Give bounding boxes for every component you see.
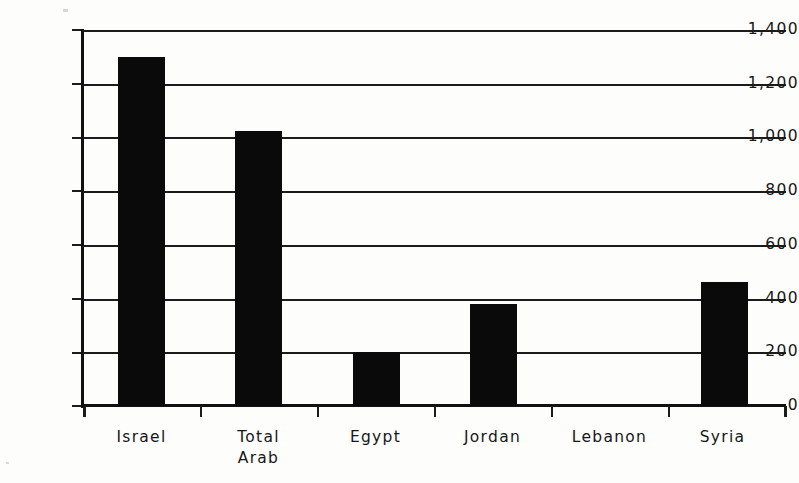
bar-egypt [353,352,400,406]
x-axis-tick [317,406,319,417]
scan-speck [63,9,68,12]
gridline-400 [83,299,786,301]
plot-area [83,30,786,406]
bar-syria [701,282,748,406]
gridline-1000 [83,137,786,139]
gridline-800 [83,191,786,193]
bar-total-arab [235,131,282,406]
x-axis-end-cap [784,406,787,417]
x-axis-label-israel: Israel [83,427,200,448]
x-axis-tick [434,406,436,417]
bar-israel [118,57,165,406]
gridline-1200 [83,84,786,86]
x-axis-label-jordan: Jordan [434,427,551,448]
x-axis-tick [551,406,553,417]
chart-page: 1,400 1,200 1,000 800 600 400 200 0 [0,0,799,483]
gridline-600 [83,245,786,247]
gridline-1400 [83,30,786,32]
gridline-200 [83,352,786,354]
bar-jordan [470,304,517,406]
x-axis-label-egypt: Egypt [317,427,434,448]
x-axis-label-total-arab: Total Arab [200,427,317,469]
x-axis-start-cap [83,406,86,417]
x-axis-tick [668,406,670,417]
scan-speck [6,462,9,464]
x-axis-label-syria: Syria [664,427,781,448]
x-axis-label-lebanon: Lebanon [551,427,668,448]
x-axis-tick [200,406,202,417]
